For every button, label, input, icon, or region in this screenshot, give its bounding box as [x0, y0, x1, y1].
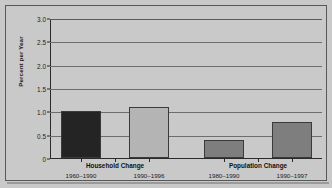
bar-period-label: 1990–1996	[134, 172, 165, 179]
y-tick-mark	[47, 19, 50, 20]
y-tick-label: 0.5	[37, 132, 46, 139]
y-tick-mark	[47, 42, 50, 43]
x-axis-labels: 1960–19901990–19961980–19901990–1997Hous…	[50, 162, 322, 188]
bar	[204, 140, 244, 158]
y-tick-label: 1.0	[37, 109, 46, 116]
y-tick-label: 0	[42, 156, 46, 163]
y-tick-mark	[47, 89, 50, 90]
bar	[272, 122, 312, 158]
plot-area: 00.51.01.52.02.53.0	[50, 19, 322, 159]
gridline	[50, 42, 322, 43]
bar-period-label: 1980–1990	[209, 172, 240, 179]
y-tick-label: 1.5	[37, 86, 46, 93]
chart-frame: Percent per Year 00.51.01.52.02.53.0 196…	[5, 5, 327, 181]
gridline	[50, 66, 322, 67]
y-tick-mark	[47, 159, 50, 160]
group-label: Population Change	[229, 162, 287, 169]
gridline	[50, 19, 322, 20]
y-tick-mark	[47, 112, 50, 113]
y-tick-label: 2.0	[37, 62, 46, 69]
y-axis-title: Percent per Year	[17, 27, 24, 97]
y-tick-mark	[47, 65, 50, 66]
bar	[61, 111, 101, 158]
chart-figure: Percent per Year 00.51.01.52.02.53.0 196…	[0, 0, 332, 188]
bar-period-label: 1960–1990	[66, 172, 97, 179]
y-tick-label: 3.0	[37, 16, 46, 23]
y-tick-mark	[47, 135, 50, 136]
gridline	[50, 89, 322, 90]
group-label: Household Change	[86, 162, 144, 169]
y-tick-label: 2.5	[37, 39, 46, 46]
bar-period-label: 1990–1997	[277, 172, 308, 179]
bar	[129, 107, 169, 158]
